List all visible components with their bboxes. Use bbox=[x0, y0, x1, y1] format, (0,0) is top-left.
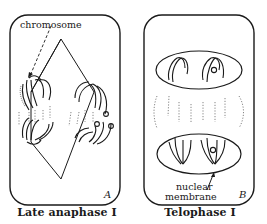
panel-late-anaphase: chromosome A bbox=[9, 14, 121, 206]
caption-telophase: Telophase I bbox=[133, 206, 267, 219]
caption-late-anaphase: Late anaphase I bbox=[0, 206, 134, 219]
chromosome-pointer bbox=[30, 26, 51, 76]
spindle-diamond bbox=[31, 39, 94, 179]
membrane-label: membrane bbox=[165, 192, 217, 202]
chromosome-cluster-top-left bbox=[20, 76, 50, 110]
panel-telophase: nuclear membrane B bbox=[143, 14, 255, 206]
telophase-illustration bbox=[143, 14, 255, 206]
chromosome-cluster-bottom-right bbox=[75, 122, 113, 144]
panel-letter-a: A bbox=[104, 189, 111, 200]
nucleus-bottom bbox=[157, 134, 241, 174]
panel-letter-b: B bbox=[239, 189, 246, 200]
chromosome-label: chromosome bbox=[20, 20, 82, 30]
late-anaphase-illustration bbox=[9, 14, 121, 206]
chromosome-cluster-bottom-left bbox=[22, 118, 53, 144]
